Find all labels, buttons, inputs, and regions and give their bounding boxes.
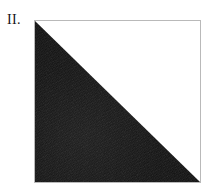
figure-page: II.	[0, 0, 216, 187]
shaded-triangle-region	[35, 21, 200, 182]
figure-label: II.	[7, 13, 21, 27]
shading-texture-overlay	[35, 21, 200, 182]
figure-square-interior	[35, 21, 200, 182]
figure-square-outline	[34, 20, 201, 183]
